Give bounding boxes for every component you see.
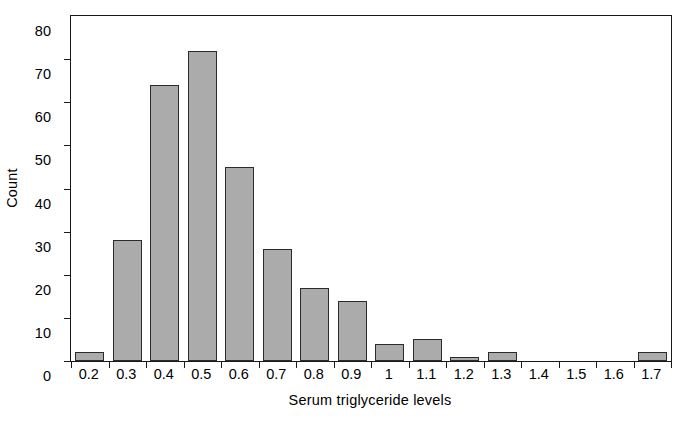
y-axis-tick	[64, 275, 71, 276]
bar-0.5	[188, 51, 217, 362]
y-axis-tick-label: 50	[9, 152, 51, 168]
y-axis-tick-label: 80	[9, 23, 51, 39]
bar-1.3	[488, 352, 517, 361]
x-axis-title-text: Serum triglyceride levels	[289, 392, 452, 408]
y-axis-tick-label: 10	[9, 325, 51, 341]
bar-0.3	[113, 240, 142, 361]
bar-1.2	[450, 357, 479, 361]
y-axis-tick	[64, 318, 71, 319]
bar-0.7	[263, 249, 292, 361]
y-axis-tick	[64, 145, 71, 146]
bar-1	[375, 344, 404, 361]
bar-0.9	[338, 301, 367, 361]
y-axis-title: Count	[0, 0, 24, 375]
bar-0.2	[75, 352, 104, 361]
bar-1.1	[413, 339, 442, 361]
bar-0.6	[225, 167, 254, 361]
plot-area: 01020304050607080	[70, 15, 672, 362]
bar-0.4	[150, 85, 179, 361]
bar-0.8	[300, 288, 329, 361]
y-axis-tick-label: 0	[9, 368, 51, 384]
y-axis-tick	[64, 232, 71, 233]
y-axis-tick	[64, 361, 71, 362]
y-axis-tick	[64, 102, 71, 103]
y-axis-tick-label: 30	[9, 239, 51, 255]
bar-1.7	[638, 352, 667, 361]
x-axis-tick-label: 1.7	[629, 366, 673, 382]
y-axis-tick-label: 40	[9, 196, 51, 212]
y-axis-tick	[64, 189, 71, 190]
x-axis-title: Serum triglyceride levels	[70, 392, 670, 408]
y-axis-tick-label: 70	[9, 66, 51, 82]
histogram-figure: Count 01020304050607080 0.20.30.40.50.60…	[0, 0, 685, 427]
y-axis-tick-label: 20	[9, 282, 51, 298]
y-axis-tick	[64, 59, 71, 60]
bars-group	[71, 16, 671, 361]
y-axis-tick-label: 60	[9, 109, 51, 125]
